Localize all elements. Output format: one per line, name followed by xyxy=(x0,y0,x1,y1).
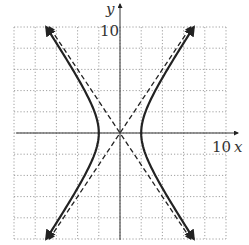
x-tick-label: 10 xyxy=(212,138,231,156)
x-axis-label: x xyxy=(234,138,243,156)
y-axis-label: y xyxy=(105,0,115,18)
hyperbola-plot: 10 y 10 x xyxy=(0,0,249,245)
y-tick-label: 10 xyxy=(100,22,119,40)
